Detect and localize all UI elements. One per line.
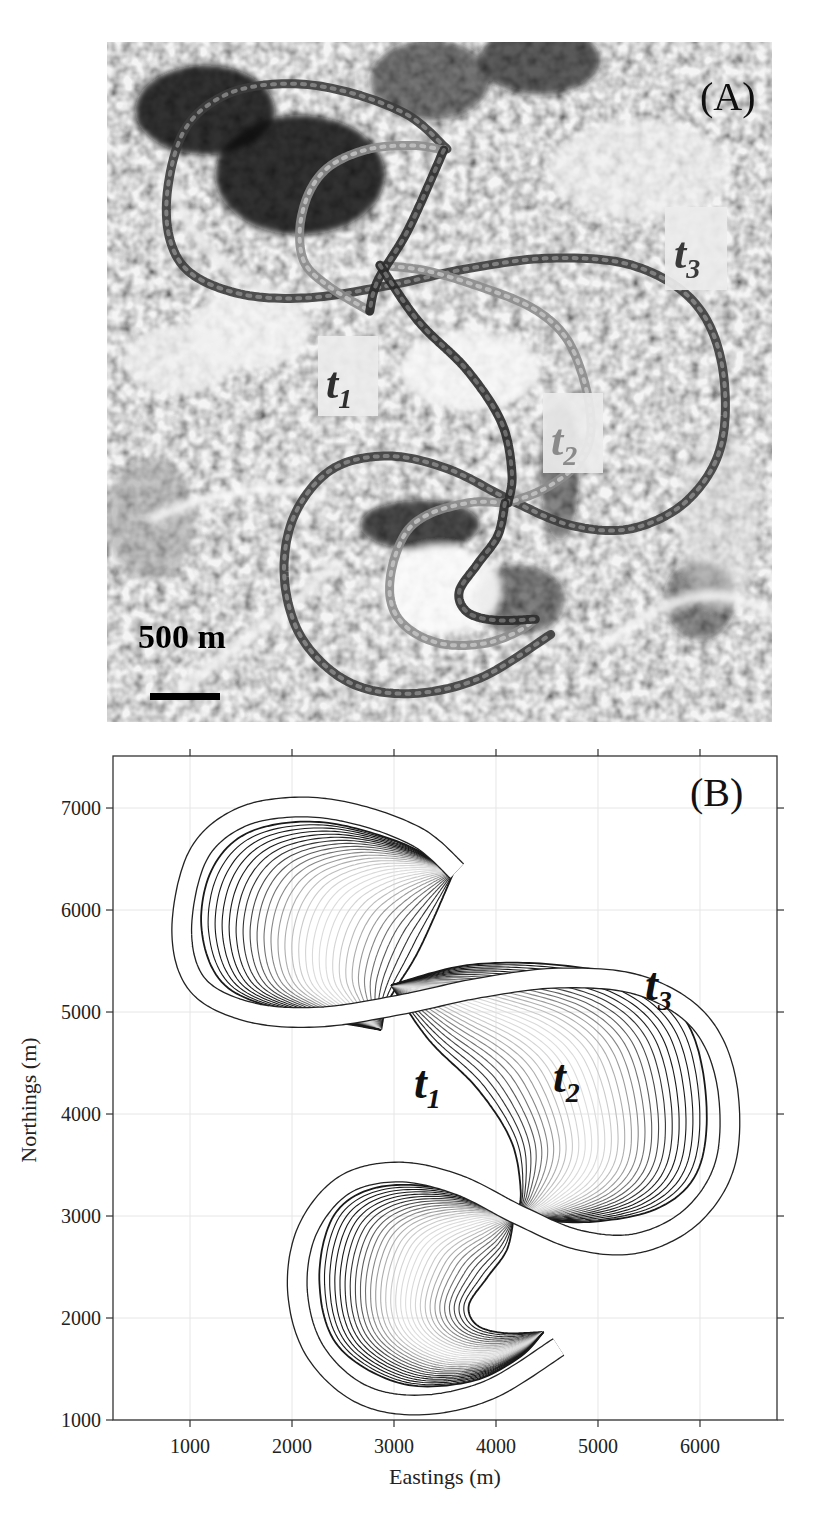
y-tick-label: 4000	[61, 1103, 101, 1125]
x-tick-label: 4000	[476, 1435, 516, 1457]
panel-a-satellite-image: t1 t2 t3 (A) 500 m	[105, 25, 780, 722]
panel-a-label: (A)	[700, 74, 756, 119]
x-tick-label: 5000	[578, 1435, 618, 1457]
panel-b-plot: 1000200030004000500060001000200030004000…	[16, 749, 784, 1489]
x-tick-label: 6000	[680, 1435, 720, 1457]
y-tick-label: 5000	[61, 1001, 101, 1023]
terrain-patch	[125, 325, 235, 395]
y-tick-label: 3000	[61, 1205, 101, 1227]
x-tick-label: 2000	[272, 1435, 312, 1457]
t2-label-box: t2	[543, 393, 603, 473]
scale-bar-line	[150, 693, 220, 700]
terrain-patch	[550, 120, 730, 220]
t1-label-box: t1	[318, 336, 378, 416]
y-axis-label: Northings (m)	[16, 1037, 41, 1162]
figure: t1 t2 t3 (A) 500 m 100020003000400050006…	[0, 0, 823, 1537]
panel-b-label: (B)	[690, 770, 743, 815]
x-tick-label: 3000	[374, 1435, 414, 1457]
y-tick-label: 7000	[61, 797, 101, 819]
t3-label-box: t3	[665, 207, 727, 290]
x-axis-label: Eastings (m)	[389, 1464, 501, 1489]
y-tick-label: 1000	[61, 1409, 101, 1431]
x-tick-label: 1000	[170, 1435, 210, 1457]
y-tick-label: 6000	[61, 899, 101, 921]
y-tick-label: 2000	[61, 1307, 101, 1329]
scale-bar-text: 500 m	[138, 618, 226, 655]
terrain-patch	[480, 25, 600, 95]
